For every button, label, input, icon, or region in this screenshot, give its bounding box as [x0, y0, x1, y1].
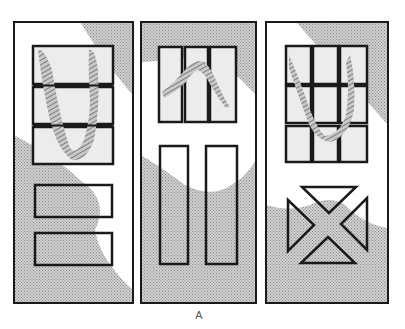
- door-1: [14, 22, 133, 303]
- door-3-glass-grid: [286, 46, 367, 162]
- door-2-glass: [159, 47, 236, 122]
- door-2: [141, 22, 256, 303]
- door-3: [266, 22, 388, 303]
- door-designs-figure: [0, 0, 405, 329]
- figure-label: A: [192, 309, 206, 321]
- door-1-glass: [33, 46, 113, 164]
